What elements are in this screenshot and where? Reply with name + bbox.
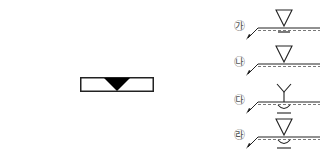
option-na[interactable]: ㉯ — [228, 44, 323, 80]
weld-question-figure: ㉮ ㉯ ㉰ — [0, 0, 323, 165]
weld-symbol-y-groove-back-weld-icon — [228, 82, 323, 118]
option-da[interactable]: ㉰ — [228, 82, 323, 118]
option-ga[interactable]: ㉮ — [228, 8, 323, 44]
weld-symbol-v-groove-icon — [228, 44, 323, 80]
weld-symbol-v-groove-back-weld-icon — [228, 117, 323, 153]
weld-cross-section — [80, 77, 154, 92]
weld-symbol-v-groove-icon — [228, 8, 323, 44]
option-ra[interactable]: ㉱ — [228, 117, 323, 153]
